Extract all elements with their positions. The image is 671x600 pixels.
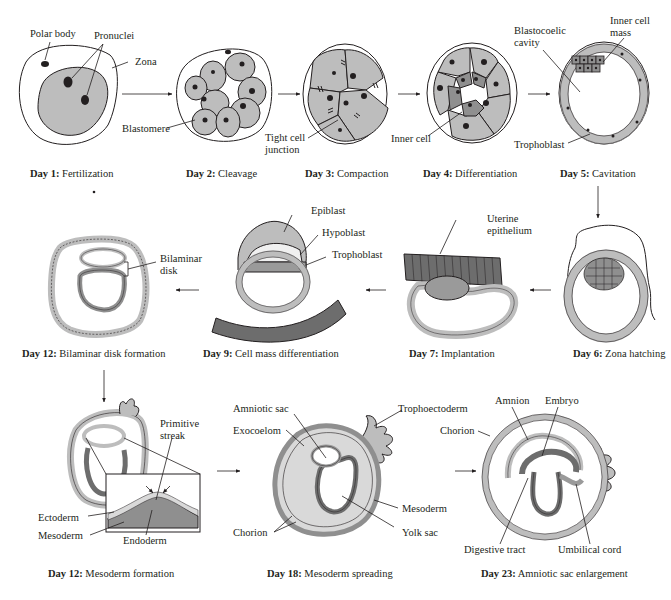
label-yolk-sac: Yolk sac [402,527,438,538]
stray-dot [93,191,96,194]
label-polar-body: Polar body [30,28,77,39]
stage-day18-mesoderm-spreading: Amniotic sac Exocoelom Trophoectoderm Me… [233,403,468,579]
caption-day12-bilaminar: Day 12: Bilaminar disk formation [22,348,166,359]
label-uterine-epithelium-1: Uterine [487,213,519,224]
embryo-development-diagram: Polar body Pronuclei Zona Day 1: Fertili… [0,0,671,600]
caption-day6: Day 6: Zona hatching [573,348,666,359]
caption-day18: Day 18: Mesoderm spreading [267,568,393,579]
label-chorion-day23: Chorion [440,425,475,436]
label-inner-cell-mass-1: Inner cell [610,15,650,26]
label-hypoblast: Hypoblast [322,227,365,238]
label-ectoderm: Ectoderm [38,512,79,523]
caption-day9: Day 9: Cell mass differentiation [203,348,339,359]
caption-day1: Day 1: Fertilization [30,168,114,179]
trophoblast-villi [119,399,138,416]
label-exocoelom: Exocoelom [233,425,281,436]
label-blastomere: Blastomere [122,123,170,134]
caption-day12-mesoderm: Day 12: Mesoderm formation [48,568,175,579]
label-blastocoelic-cavity-2: cavity [514,37,540,48]
label-mesoderm: Mesoderm [38,530,83,541]
caption-day23: Day 23: Amniotic sac enlargement [481,568,628,579]
stage-day7-implantation: Uterine epithelium Day 7: Implantation [404,213,532,359]
label-amniotic-sac: Amniotic sac [233,403,289,414]
label-inner-cell-mass-2: mass [610,27,631,38]
label-epiblast: Epiblast [311,205,345,216]
stage-day3-compaction: Tight cell junction Day 3: Compaction [264,44,389,179]
label-primitive-streak-2: streak [160,430,186,441]
stage-day23-amniotic-sac: Amnion Embryo Chorion Digestive tract Um… [440,395,628,579]
label-zona: Zona [135,56,157,67]
label-trophoblast: Trophoblast [514,139,564,150]
label-tight-cell-junction-2: junction [264,144,300,155]
label-amnion: Amnion [495,395,530,406]
stage-day12-mesoderm-formation: Primitive streak Ectoderm Mesoderm Endod… [38,399,200,579]
label-umbilical-cord: Umbilical cord [558,544,622,555]
label-endoderm: Endoderm [123,535,167,546]
label-primitive-streak-1: Primitive [160,418,199,429]
stage-day4-differentiation: Inner cell Day 4: Differentiation [391,43,518,179]
label-blastocoelic-cavity-1: Blastocoelic [514,25,566,36]
label-pronuclei: Pronuclei [94,30,134,41]
label-digestive-tract: Digestive tract [464,544,526,555]
stage-day2-cleavage: Blastomere Day 2: Cleavage [122,49,272,179]
label-inner-cell: Inner cell [391,133,431,144]
pronucleus-icon [81,95,89,105]
stage-day9-cell-mass-differentiation: Epiblast Hypoblast Trophoblast Day 9: Ce… [203,205,382,359]
label-tight-cell-junction-1: Tight cell [265,132,305,143]
pronucleus-icon [64,77,73,88]
label-trophoectoderm: Trophoectoderm [398,403,468,414]
label-chorion-day18: Chorion [233,527,268,538]
caption-day4: Day 4: Differentiation [423,168,518,179]
label-uterine-epithelium-2: epithelium [487,225,532,236]
label-bilaminar-disk-1: Bilaminar [160,253,202,264]
caption-day5: Day 5: Cavitation [560,168,637,179]
polar-body-icon [41,61,49,67]
stage-day6-zona-hatching: Day 6: Zona hatching [564,225,666,359]
label-bilaminar-disk-2: disk [160,265,178,276]
label-embryo: Embryo [545,395,579,406]
stage-day5-cavitation: Blastocoelic cavity Inner cell mass Trop… [514,15,650,179]
stage-day1-fertilization: Polar body Pronuclei Zona Day 1: Fertili… [19,28,157,179]
caption-day2: Day 2: Cleavage [186,168,257,179]
stage-day12-bilaminar-disk: Bilaminar disk Day 12: Bilaminar disk fo… [22,239,202,359]
label-mesoderm-day18: Mesoderm [402,503,447,514]
caption-day3: Day 3: Compaction [305,168,389,179]
caption-day7: Day 7: Implantation [409,348,495,359]
label-trophoblast-day9: Trophoblast [332,249,382,260]
